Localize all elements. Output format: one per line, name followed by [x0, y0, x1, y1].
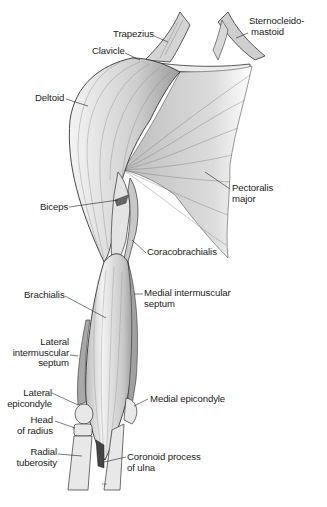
- label-biceps: Biceps: [40, 202, 68, 213]
- label-coracobrachialis: Coracobrachialis: [147, 247, 217, 258]
- label-lateral-epicondyle: Lateral epicondyle: [4, 388, 52, 409]
- label-lateral-intermuscular-septum: Lateral intermuscular septum: [12, 337, 69, 369]
- medial-epicondyle-bone: [124, 398, 137, 424]
- lateral-epicondyle-bone: [75, 404, 93, 424]
- label-pectoralis-major: Pectoralis major: [232, 183, 273, 204]
- label-trapezius: Trapezius: [113, 29, 154, 40]
- label-medial-intermuscular-septum: Medial intermuscular septum: [144, 288, 231, 309]
- label-deltoid: Deltoid: [35, 93, 64, 104]
- label-coronoid-process-of-ulna: Coronoid process of ulna: [127, 452, 201, 473]
- brachialis-muscle: [86, 254, 134, 460]
- artist-signature: ra: [102, 481, 107, 486]
- biceps-tendon: [96, 440, 104, 468]
- label-sternocleidomastoid: Sternocleido- mastoid: [249, 16, 304, 37]
- label-radial-tuberosity: Radial tuberosity: [12, 447, 57, 468]
- label-clavicle: Clavicle: [92, 46, 125, 57]
- radius-bone: [68, 436, 92, 490]
- label-medial-epicondyle: Medial epicondyle: [150, 394, 225, 405]
- label-head-of-radius: Head of radius: [12, 415, 53, 436]
- head-of-radius-bone: [74, 424, 92, 436]
- label-brachialis: Brachialis: [24, 290, 65, 301]
